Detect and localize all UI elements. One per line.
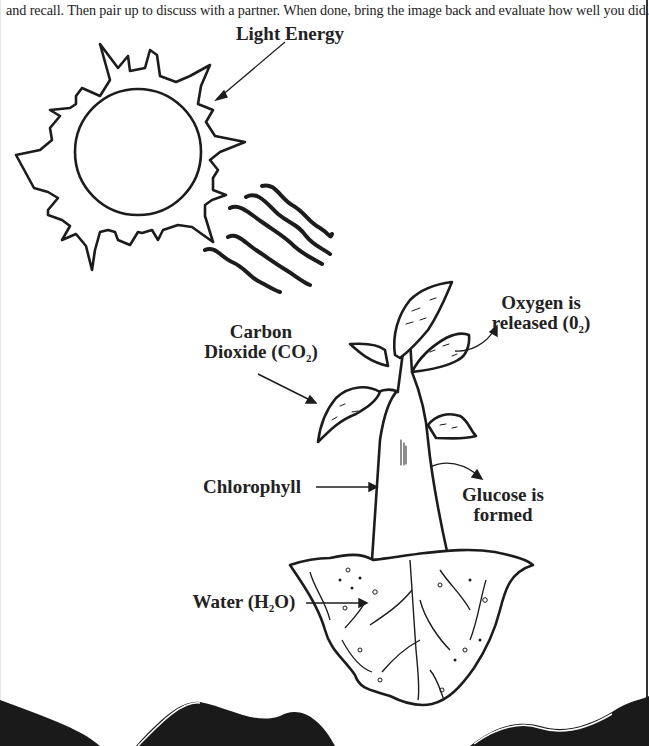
label-light-energy: Light Energy — [225, 24, 355, 44]
sun-icon — [16, 44, 245, 270]
light-energy-arrow — [216, 42, 285, 100]
label-carbon-dioxide: Carbon Dioxide (CO2) — [196, 322, 326, 362]
label-oxygen-released: Oxygen is released (02) — [476, 293, 606, 333]
light-rays-icon — [205, 185, 332, 292]
footer-wave-decoration — [0, 696, 649, 746]
label-glucose-formed: Glucose is formed — [448, 485, 558, 525]
label-chlorophyll: Chlorophyll — [192, 477, 312, 497]
label-water: Water (H2O) — [184, 592, 304, 612]
